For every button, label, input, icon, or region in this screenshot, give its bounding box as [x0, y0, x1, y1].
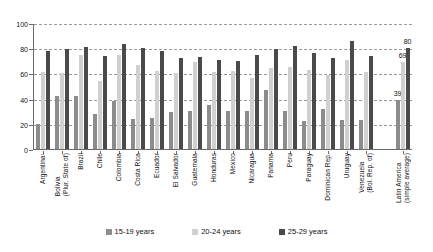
bar-20-24-years	[326, 75, 330, 149]
legend-label: 20-24 years	[201, 228, 241, 236]
legend-label: 15-19 years	[115, 228, 155, 236]
x-axis-label-text: Dominican Rep.	[324, 153, 332, 201]
bar-group	[34, 24, 53, 149]
bar-25-29-years	[179, 58, 183, 149]
bar-group	[318, 24, 337, 149]
bar-15-19-years	[188, 111, 192, 149]
bar-group	[72, 24, 91, 149]
bar-chart: 020406080100 396980 Argentina¹Bolivia (P…	[0, 0, 433, 252]
bar-20-24-years	[79, 55, 83, 150]
bar-group	[148, 24, 167, 149]
x-axis-label: Bolivia (Plur. State of)	[52, 151, 71, 217]
bar-15-19-years	[245, 111, 249, 149]
bar-data-label: 80	[404, 38, 412, 45]
bar-15-19-years	[112, 101, 116, 149]
bar-group	[186, 24, 205, 149]
y-tick-label-40: 40	[20, 96, 28, 103]
x-axis-label-text: El Salvador	[172, 153, 180, 187]
x-axis-label-text: Chile	[96, 153, 104, 168]
x-axis-label: Brazil	[71, 151, 90, 217]
bar-25-29-years	[255, 55, 259, 150]
x-axis-label-text: Nicaragua	[248, 153, 256, 184]
x-axis-label-text: Venezuela (Bol. Rep. of)	[358, 153, 373, 193]
x-axis-label: Mexico	[223, 151, 242, 217]
bar-25-29-years	[312, 53, 316, 149]
bar-20-24-years	[98, 81, 102, 149]
bar-15-19-years	[207, 105, 211, 149]
y-tick-label-80: 80	[20, 46, 28, 53]
bar-15-19-years	[55, 96, 59, 149]
legend-item-25-29-years[interactable]: 25-29 years	[279, 228, 328, 236]
x-axis-label: Panama	[261, 151, 280, 217]
bar-20-24-years	[250, 78, 254, 149]
bar-15-19-years	[131, 119, 135, 149]
bar-group	[280, 24, 299, 149]
x-axis-label-text: Colombia	[115, 153, 123, 181]
bar-25-29-years	[160, 51, 164, 149]
bar-25-29-years	[293, 46, 297, 149]
x-axis-label: Guatemala	[185, 151, 204, 217]
bar-group	[167, 24, 186, 149]
bar-group	[110, 24, 129, 149]
bar-group	[129, 24, 148, 149]
bar-group	[299, 24, 318, 149]
bar-15-19-years	[169, 112, 173, 149]
x-axis-label-text: Mexico	[229, 153, 237, 174]
x-axis-label-text: Uruguay	[343, 153, 351, 178]
x-axis-label: Chile	[90, 151, 109, 217]
bar-25-29-years	[198, 57, 202, 149]
legend-label: 25-29 years	[288, 228, 328, 236]
legend-item-15-19-years[interactable]: 15-19 years	[106, 228, 155, 236]
bar-25-29-years	[350, 41, 354, 149]
bar-groups: 396980	[34, 24, 412, 149]
bar-group	[242, 24, 261, 149]
bar-15-19-years	[340, 120, 344, 149]
x-axis-label: Latin America (simple average)	[393, 151, 412, 217]
bar-25-29-years	[369, 56, 373, 149]
bar-20-24-years	[117, 55, 121, 150]
bar-25-29-years	[141, 48, 145, 149]
bar-25-29-years	[274, 49, 278, 149]
x-axis-label-text: Latin America (simple average)	[395, 153, 410, 203]
bar-25-29-years: 80	[406, 48, 410, 149]
y-tick-label-60: 60	[20, 71, 28, 78]
y-tick-label-0: 0	[24, 147, 28, 154]
legend-swatch-20-24-icon	[192, 229, 198, 235]
bar-20-24-years	[174, 73, 178, 149]
bar-group	[261, 24, 280, 149]
x-axis-label-text: Bolivia (Plur. State of)	[54, 153, 69, 196]
legend-swatch-15-19-icon	[106, 229, 112, 235]
bar-25-29-years	[122, 44, 126, 149]
plot-area: 396980	[33, 24, 412, 150]
legend-item-20-24-years[interactable]: 20-24 years	[192, 228, 241, 236]
bar-group	[356, 24, 375, 149]
x-axis-label-text: Paraguay	[305, 153, 313, 182]
x-axis-labels: Argentina¹Bolivia (Plur. State of)Brazil…	[33, 151, 412, 217]
x-axis-label: Peru	[280, 151, 299, 217]
bar-20-24-years	[155, 71, 159, 149]
bar-20-24-years	[345, 60, 349, 149]
bar-20-24-years	[288, 67, 292, 149]
y-tick-label-20: 20	[20, 121, 28, 128]
x-axis-label-text: Honduras	[210, 153, 218, 182]
y-tick-label-100: 100	[16, 21, 28, 28]
group-separator	[375, 24, 393, 149]
bar-25-29-years	[46, 51, 50, 149]
bar-20-24-years	[269, 68, 273, 149]
bar-15-19-years	[321, 109, 325, 149]
bar-25-29-years	[236, 61, 240, 149]
x-axis-label: Colombia	[109, 151, 128, 217]
bar-25-29-years	[331, 58, 335, 149]
bar-group	[337, 24, 356, 149]
bar-20-24-years: 69	[401, 62, 405, 149]
x-axis-label: Ecuador	[147, 151, 166, 217]
bar-20-24-years	[41, 72, 45, 149]
bar-15-19-years	[264, 90, 268, 149]
x-axis-label: El Salvador	[166, 151, 185, 217]
bar-20-24-years	[231, 71, 235, 149]
bar-20-24-years	[136, 65, 140, 149]
x-axis-label: Dominican Rep.	[318, 151, 337, 217]
bar-15-19-years	[359, 120, 363, 149]
bar-15-19-years	[283, 111, 287, 149]
bar-group	[224, 24, 243, 149]
